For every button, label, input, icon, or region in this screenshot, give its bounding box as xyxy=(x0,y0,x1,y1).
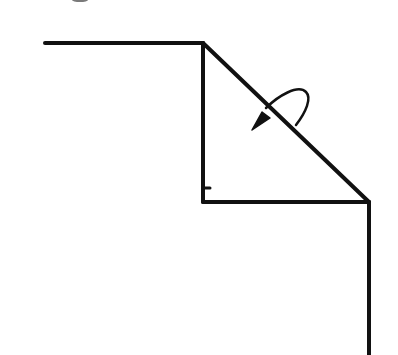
diagonal-fold-line xyxy=(203,43,369,202)
fold-diagram xyxy=(0,0,398,355)
partial-shape-top xyxy=(72,0,88,2)
